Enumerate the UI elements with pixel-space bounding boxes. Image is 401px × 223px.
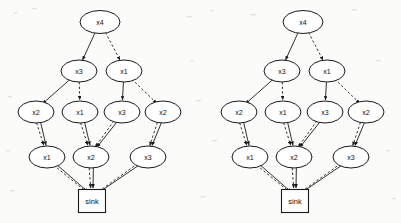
node-ellipse — [307, 101, 343, 123]
node-x3[interactable]: x3 — [307, 101, 343, 123]
node-x1[interactable]: x1 — [309, 60, 345, 82]
edge-solid — [43, 79, 71, 104]
scan-speck — [210, 10, 214, 11]
scan-speck — [352, 9, 357, 10]
node-x2[interactable]: x2 — [145, 101, 181, 123]
edge-dashed — [308, 32, 323, 60]
node-ellipse — [104, 101, 140, 123]
node-ellipse — [80, 11, 120, 34]
bdd-figure-page: x4x3x1x2x1x3x2x1x2x3sinkx4x3x1x2x1x3x2x1… — [0, 0, 401, 223]
bdd-figure-canvas: x4x3x1x2x1x3x2x1x2x3sinkx4x3x1x2x1x3x2x1… — [0, 0, 401, 223]
nodes-layer: x4x3x1x2x1x3x2x1x2x3sinkx4x3x1x2x1x3x2x1… — [18, 11, 384, 213]
edge-solid — [98, 164, 141, 193]
node-ellipse — [264, 60, 300, 82]
edge-solid — [355, 123, 365, 146]
edge-dashed — [54, 165, 87, 192]
node-x1[interactable]: x1 — [232, 146, 268, 168]
scan-speck — [250, 14, 256, 15]
node-ellipse — [106, 60, 142, 82]
edge-dashed — [240, 123, 247, 146]
scan-speck — [196, 100, 201, 101]
edge-solid — [85, 123, 90, 146]
scan-speck — [6, 150, 10, 151]
scan-speck — [32, 8, 37, 9]
node-ellipse — [265, 101, 301, 123]
node-ellipse — [232, 146, 268, 168]
edge-dashed — [335, 79, 360, 103]
edge-dashed — [89, 168, 91, 188]
node-x2[interactable]: x2 — [221, 101, 257, 123]
node-x3[interactable]: x3 — [61, 60, 97, 82]
edge-solid — [244, 123, 249, 146]
edge-dashed — [37, 123, 44, 146]
edge-dashed — [132, 79, 157, 103]
sink-box — [79, 190, 106, 213]
edge-dashed — [284, 123, 291, 146]
scan-speck — [386, 150, 390, 151]
scan-speck — [8, 96, 12, 97]
node-ellipse — [61, 60, 97, 82]
node-x3[interactable]: x3 — [264, 60, 300, 82]
edge-solid — [152, 123, 162, 146]
node-ellipse — [309, 60, 345, 82]
sink-terminal[interactable]: sink — [79, 190, 106, 213]
node-x3[interactable]: x3 — [333, 146, 369, 168]
node-x2[interactable]: x2 — [348, 101, 384, 123]
node-ellipse — [333, 146, 369, 168]
scan-speck — [14, 12, 17, 13]
node-ellipse — [145, 101, 181, 123]
node-x1[interactable]: x1 — [106, 60, 142, 82]
edge-solid — [246, 79, 274, 104]
scan-speck — [186, 16, 192, 17]
edge-solid — [286, 33, 299, 60]
edge-dashed — [300, 163, 341, 193]
edge-solid — [301, 164, 344, 193]
edge-dashed — [292, 168, 294, 188]
node-ellipse — [276, 146, 312, 168]
edge-solid — [325, 82, 326, 100]
node-x2[interactable]: x2 — [18, 101, 54, 123]
edge-dashed — [81, 123, 88, 146]
node-ellipse — [130, 146, 166, 168]
edge-solid — [56, 164, 88, 192]
edge-dashed — [97, 163, 138, 193]
node-ellipse — [73, 146, 109, 168]
node-x4[interactable]: x4 — [80, 11, 120, 34]
node-ellipse — [348, 101, 384, 123]
edge-dashed — [105, 32, 120, 60]
sink-terminal[interactable]: sink — [282, 190, 309, 213]
edge-solid — [122, 82, 123, 100]
edge-dashed — [79, 82, 80, 100]
node-ellipse — [221, 101, 257, 123]
node-x3[interactable]: x3 — [104, 101, 140, 123]
node-x2[interactable]: x2 — [276, 146, 312, 168]
node-x1[interactable]: x1 — [62, 101, 98, 123]
edge-solid — [83, 33, 96, 60]
scan-speck — [200, 196, 206, 197]
node-ellipse — [62, 101, 98, 123]
edge-solid — [41, 123, 46, 146]
edge-solid — [300, 121, 320, 147]
node-x3[interactable]: x3 — [130, 146, 166, 168]
node-x4[interactable]: x4 — [283, 11, 323, 34]
node-x2[interactable]: x2 — [73, 146, 109, 168]
edge-dashed — [257, 165, 290, 192]
scan-speck — [212, 140, 217, 141]
scan-speck — [392, 198, 396, 199]
edge-solid — [259, 164, 291, 192]
node-ellipse — [18, 101, 54, 123]
node-ellipse — [283, 11, 323, 34]
node-x1[interactable]: x1 — [29, 146, 65, 168]
edge-dashed — [95, 121, 114, 147]
edge-solid — [288, 123, 293, 146]
sink-box — [282, 190, 309, 213]
node-ellipse — [29, 146, 65, 168]
scan-speck — [190, 60, 194, 61]
scan-speck — [10, 190, 15, 191]
edge-solid — [97, 121, 117, 147]
edge-dashed — [282, 82, 283, 100]
scan-speck — [376, 60, 381, 61]
edge-dashed — [298, 121, 317, 147]
node-x1[interactable]: x1 — [265, 101, 301, 123]
